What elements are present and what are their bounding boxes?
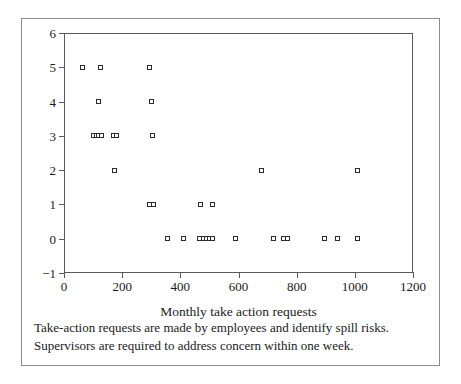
- x-tick-1000: [355, 272, 356, 278]
- y-tick-6: [59, 33, 65, 34]
- data-point: [335, 236, 340, 241]
- data-point: [285, 236, 290, 241]
- y-tick-label-6: 6: [50, 27, 57, 40]
- figure-caption: Take-action requests are made by employe…: [34, 319, 429, 356]
- y-tick-3: [59, 136, 65, 137]
- y-tick-label--1: −1: [42, 267, 56, 280]
- y-tick-label-0: 0: [50, 232, 57, 245]
- y-tick-5: [59, 67, 65, 68]
- data-point: [198, 202, 203, 207]
- y-tick-label-5: 5: [50, 61, 57, 74]
- x-axis-title: Monthly take action requests: [64, 305, 413, 319]
- x-tick-label-1200: 1200: [400, 280, 426, 293]
- x-tick-label-1000: 1000: [342, 280, 368, 293]
- caption-line-1: Take-action requests are made by employe…: [34, 319, 429, 337]
- x-tick-800: [297, 272, 298, 278]
- x-tick-label-0: 0: [61, 280, 68, 293]
- x-tick-600: [239, 272, 240, 278]
- plot-area: −10123456 020040060080010001200: [64, 33, 413, 273]
- y-tick-label-4: 4: [50, 95, 57, 108]
- caption-line-2: Supervisors are required to address conc…: [34, 337, 429, 355]
- figure-panel: −10123456 020040060080010001200 Monthly …: [21, 18, 440, 366]
- x-tick-200: [122, 272, 123, 278]
- x-tick-label-400: 400: [171, 280, 191, 293]
- data-point: [147, 65, 152, 70]
- data-point: [210, 202, 215, 207]
- data-point: [181, 236, 186, 241]
- data-point: [355, 168, 360, 173]
- y-tick-1: [59, 204, 65, 205]
- plot-frame: [64, 33, 413, 273]
- y-tick-label-1: 1: [50, 198, 57, 211]
- y-tick-2: [59, 170, 65, 171]
- y-tick-label-3: 3: [50, 129, 57, 142]
- x-tick-400: [180, 272, 181, 278]
- data-point: [271, 236, 276, 241]
- x-tick-label-200: 200: [112, 280, 132, 293]
- data-point: [151, 202, 156, 207]
- data-point: [96, 99, 101, 104]
- data-point: [149, 99, 154, 104]
- x-tick-label-800: 800: [287, 280, 307, 293]
- data-point: [150, 133, 155, 138]
- data-point: [210, 236, 215, 241]
- data-point: [259, 168, 264, 173]
- data-point: [114, 133, 119, 138]
- x-tick-label-600: 600: [229, 280, 249, 293]
- data-point: [322, 236, 327, 241]
- data-point: [80, 65, 85, 70]
- data-point: [112, 168, 117, 173]
- data-point: [355, 236, 360, 241]
- x-tick-1200: [413, 272, 414, 278]
- y-tick-label-2: 2: [50, 164, 57, 177]
- x-tick-0: [64, 272, 65, 278]
- data-point: [165, 236, 170, 241]
- data-point: [99, 133, 104, 138]
- y-tick-0: [59, 239, 65, 240]
- data-point: [98, 65, 103, 70]
- y-tick-4: [59, 102, 65, 103]
- data-point: [233, 236, 238, 241]
